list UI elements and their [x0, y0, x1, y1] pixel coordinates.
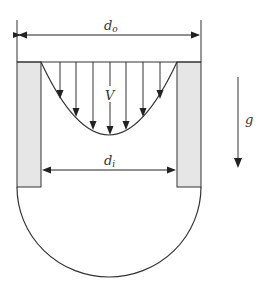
outer-diameter-label: do	[104, 18, 118, 34]
gravity-arrow: g	[234, 77, 253, 168]
tube-flow-diagram: do V di g	[0, 0, 264, 291]
left-wall	[17, 62, 41, 187]
hemispherical-bottom	[17, 187, 201, 277]
velocity-label: V	[105, 88, 116, 103]
gravity-label: g	[245, 112, 253, 127]
right-wall	[177, 62, 201, 187]
inner-diameter-dimension: di	[42, 153, 176, 174]
inner-diameter-label: di	[104, 153, 115, 169]
outer-diameter-dimension: do	[18, 18, 200, 39]
